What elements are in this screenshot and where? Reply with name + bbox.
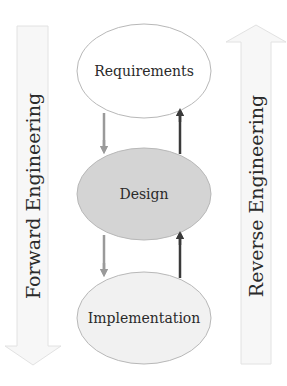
reverse-engineering-label: Reverse Engineering	[245, 95, 267, 297]
engineering-diagram: Requirements Design Implementation Forwa…	[0, 0, 287, 386]
implementation-label: Implementation	[88, 310, 201, 326]
design-label: Design	[119, 186, 168, 202]
requirements-label: Requirements	[94, 63, 194, 79]
forward-engineering-label: Forward Engineering	[22, 93, 44, 299]
